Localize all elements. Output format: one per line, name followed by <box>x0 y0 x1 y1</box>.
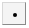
dot-icon <box>13 13 17 17</box>
dot-tool-button[interactable] <box>2 2 26 25</box>
